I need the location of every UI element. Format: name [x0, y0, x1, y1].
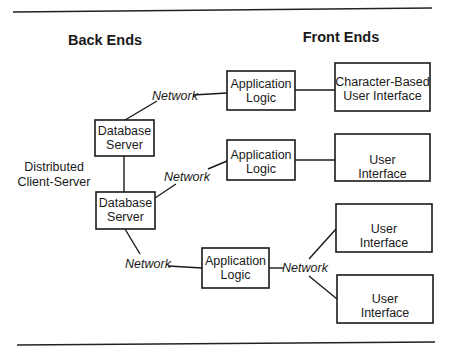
- db-server-1-node: Database Server: [95, 120, 154, 156]
- client-server-label: Client-Server: [18, 175, 91, 189]
- ui-4-line2: Interface: [361, 306, 410, 320]
- ui-3-line1: User: [371, 222, 397, 236]
- distributed-label: Distributed: [24, 160, 84, 174]
- db-server-2-node: Database Server: [96, 192, 155, 229]
- ui-2-line1: User: [369, 153, 395, 167]
- db-server-2-line1: Database: [99, 196, 153, 210]
- network-label-3: Network: [125, 257, 172, 271]
- front-ends-header: Front Ends: [303, 29, 380, 45]
- ui-2-node: User Interface: [335, 134, 430, 181]
- edge-network-ui3: [309, 229, 336, 259]
- bottom-rule: [17, 342, 435, 345]
- db-server-1-line1: Database: [98, 124, 152, 138]
- network-label-2: Network: [164, 170, 211, 184]
- app-logic-3-line2: Logic: [221, 268, 251, 282]
- back-ends-header: Back Ends: [68, 32, 142, 48]
- app-logic-2-line1: Application: [230, 148, 291, 162]
- app-logic-1-line1: Application: [230, 77, 291, 91]
- diagram-canvas: Back Ends Front Ends Distributed Client-…: [0, 0, 450, 352]
- app-logic-1-node: Application Logic: [227, 71, 295, 110]
- network-label-1: Network: [152, 89, 199, 103]
- ui-3-line2: Interface: [360, 236, 409, 250]
- ui-4-line1: User: [372, 292, 398, 306]
- app-logic-2-node: Application Logic: [227, 140, 295, 180]
- app-logic-3-line1: Application: [205, 254, 266, 268]
- edge-network-app1: [193, 93, 227, 95]
- edge-db2-network-2: [125, 229, 140, 254]
- edge-network-app3: [168, 266, 202, 268]
- char-ui-node: Character-Based User Interface: [335, 63, 430, 111]
- app-logic-2-line2: Logic: [246, 162, 276, 176]
- db-server-1-line2: Server: [106, 138, 143, 152]
- edge-db1-network: [125, 101, 157, 120]
- char-ui-line1: Character-Based: [335, 75, 430, 89]
- top-rule: [13, 8, 432, 12]
- char-ui-line2: User Interface: [343, 89, 422, 103]
- db-server-2-line2: Server: [107, 210, 144, 224]
- ui-4-node: User Interface: [337, 275, 433, 323]
- app-logic-3-node: Application Logic: [202, 248, 269, 288]
- app-logic-1-line2: Logic: [246, 91, 276, 105]
- edge-db2-network: [155, 184, 176, 198]
- edge-network-ui4: [309, 276, 337, 299]
- edge-network-app2: [208, 161, 227, 169]
- ui-3-node: User Interface: [336, 204, 432, 252]
- ui-2-line2: Interface: [358, 167, 407, 181]
- network-label-4: Network: [282, 261, 329, 275]
